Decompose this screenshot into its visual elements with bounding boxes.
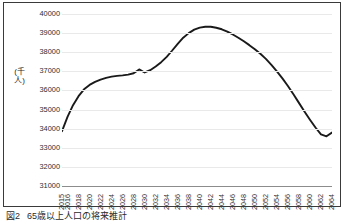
x-axis-tick-label: 2062 [317,188,324,210]
x-axis-tick-label: 2038 [185,188,192,210]
x-axis-tick-label: 2046 [229,188,236,210]
x-axis-tick-label: 2052 [262,188,269,210]
x-axis-tick-label: 2042 [207,188,214,210]
x-axis-tick-label: 2040 [196,188,203,210]
x-axis-tick-label: 2022 [97,188,104,210]
caption-text: 65歳以上人口の将来推計 [27,211,127,221]
gridline [62,90,332,91]
y-axis-ticks: 4000039000380003700036000350003400033000… [22,14,60,186]
x-axis-tick-label: 2060 [306,188,313,210]
x-axis-tick-label: 2048 [240,188,247,210]
y-axis-tick-label: 33000 [26,144,60,151]
gridline [62,167,332,168]
gridline [62,71,332,72]
caption-number: 図2 [6,211,20,221]
x-axis-tick-label: 2058 [295,188,302,210]
gridline [62,129,332,130]
gridline [62,33,332,34]
x-axis-tick-label: 2024 [108,188,115,210]
x-axis-tick-label: 2054 [273,188,280,210]
y-axis-tick-label: 34000 [26,125,60,132]
gridline [62,110,332,111]
y-axis-tick-label: 37000 [26,68,60,75]
gridline [62,148,332,149]
y-axis-tick-label: 36000 [26,87,60,94]
y-axis-tick-label: 40000 [26,10,60,17]
x-axis-tick-label: 2034 [163,188,170,210]
series-line-65plus [62,27,332,137]
x-axis-tick-label: 2044 [218,188,225,210]
x-axis-tick-label: 2030 [141,188,148,210]
gridline [62,14,332,15]
gridline [62,52,332,53]
x-axis-tick-label: 2036 [174,188,181,210]
figure-caption: 図265歳以上人口の将来推計 [6,210,336,223]
x-axis-tick-label: 2056 [284,188,291,210]
x-axis-tick-label: 2064 [328,188,335,210]
figure-container: (千人) 40000390003800037000360003500034000… [0,0,346,223]
x-axis-ticks: 2015201620182020202220242026202820302032… [62,188,332,212]
x-axis-tick-label: 2028 [130,188,137,210]
x-axis-tick-label: 2018 [75,188,82,210]
x-axis-tick-label: 2026 [119,188,126,210]
y-axis-tick-label: 32000 [26,163,60,170]
y-axis-tick-label: 35000 [26,106,60,113]
line-series-chart [62,14,332,186]
plot-area [62,14,332,186]
x-axis-tick-label: 2016 [64,188,71,210]
x-axis-line [62,186,332,187]
y-axis-tick-label: 38000 [26,49,60,56]
y-axis-tick-label: 39000 [26,29,60,36]
y-axis-tick-label: 31000 [26,182,60,189]
x-axis-tick-label: 2032 [152,188,159,210]
chart-frame: (千人) 40000390003800037000360003500034000… [3,2,341,207]
x-axis-tick-label: 2050 [251,188,258,210]
x-axis-tick-label: 2020 [86,188,93,210]
